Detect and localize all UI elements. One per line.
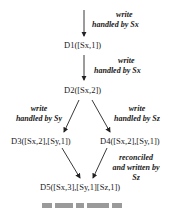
edge-label-d4-d5: reconciled and written by Sz bbox=[104, 153, 168, 183]
node-d2: D2([Sx,2]) bbox=[64, 85, 101, 95]
edge-label-line: write bbox=[92, 10, 139, 20]
edge-label-line: handled by Sx bbox=[92, 20, 139, 30]
edge-label-d1-d2: write handled by Sx bbox=[94, 56, 141, 76]
edge-label-d2-d4: write handled by Sz bbox=[106, 104, 168, 124]
node-d4: D4([Sx,2],[Sy,1]) bbox=[100, 136, 160, 146]
edge-label-d2-d3: write handled by Sy bbox=[8, 104, 70, 124]
edge-label-start-d1: write handled by Sx bbox=[92, 10, 139, 30]
edge-d3-d5 bbox=[62, 148, 80, 178]
edge-label-line: write bbox=[106, 104, 168, 114]
node-d3: D3([Sx,2],[Sy,1]) bbox=[11, 136, 71, 146]
node-d1: D1([Sx,1]) bbox=[64, 40, 101, 50]
edge-label-line: write bbox=[94, 56, 141, 66]
figure-caption-illegible bbox=[42, 203, 138, 209]
edge-label-line: handled by Sz bbox=[106, 114, 168, 124]
edge-label-line: handled by Sy bbox=[8, 114, 70, 124]
edge-label-line: reconciled bbox=[104, 153, 168, 163]
node-d5: D5([Sx,3],[Sy,1][Sz,1]) bbox=[40, 182, 120, 192]
edge-label-line: write bbox=[8, 104, 70, 114]
edge-label-line: handled by Sx bbox=[94, 66, 141, 76]
edge-label-line: and written by bbox=[104, 163, 168, 173]
